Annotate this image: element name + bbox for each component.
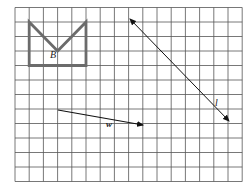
grid-diagram — [0, 0, 250, 187]
vector-w-label: w — [106, 119, 112, 129]
shape-b-label: B — [50, 50, 56, 60]
grid-lines — [15, 8, 242, 182]
line-l-label: l — [215, 98, 218, 108]
